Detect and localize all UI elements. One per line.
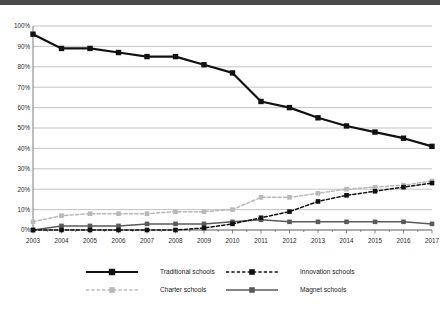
y-axis-tick-label: 50%	[17, 124, 30, 131]
data-point-marker	[287, 105, 292, 110]
legend-marker-swatch	[109, 287, 115, 293]
data-point-marker	[401, 220, 406, 225]
data-point-marker	[373, 189, 378, 194]
legend-marker-swatch	[249, 287, 255, 293]
data-point-marker	[145, 222, 150, 227]
series-traditional-schools	[30, 31, 434, 149]
x-axis-tick-label: 2008	[168, 237, 183, 244]
data-point-marker	[59, 213, 64, 218]
data-point-marker	[173, 222, 178, 227]
y-axis-tick-label: 30%	[17, 165, 30, 172]
data-point-marker	[31, 228, 36, 233]
data-point-marker	[430, 222, 435, 227]
data-point-marker	[173, 209, 178, 214]
data-point-marker	[316, 199, 321, 204]
series-line	[33, 34, 432, 146]
legend-item-charter-schools[interactable]: Charter schools	[86, 286, 207, 293]
legend-item-traditional-schools[interactable]: Traditional schools	[86, 268, 215, 275]
data-point-marker	[116, 224, 121, 229]
y-axis-tick-label: 10%	[17, 206, 30, 213]
y-axis-tick-label: 40%	[17, 145, 30, 152]
data-point-marker	[258, 99, 263, 104]
y-axis-tick-label: 0%	[21, 226, 31, 233]
legend-item-label: Charter schools	[160, 286, 207, 293]
data-point-marker	[344, 187, 349, 192]
legend-item-label: Traditional schools	[160, 268, 215, 275]
x-axis-tick-label: 2016	[396, 237, 411, 244]
data-point-marker	[344, 123, 349, 128]
legend-graphic: Traditional schoolsInnovation schoolsCha…	[0, 258, 440, 308]
data-point-marker	[173, 228, 178, 233]
x-axis-tick-label: 2009	[197, 237, 212, 244]
legend-item-label: Magnet schools	[300, 286, 347, 294]
data-point-marker	[430, 181, 435, 186]
data-point-marker	[373, 220, 378, 225]
data-point-marker	[287, 195, 292, 200]
data-point-marker	[344, 220, 349, 225]
data-point-marker	[144, 54, 149, 59]
y-axis-tick-label: 20%	[17, 186, 30, 193]
data-point-marker	[230, 70, 235, 75]
x-axis-tick-label: 2004	[54, 237, 69, 244]
x-axis-tick-label: 2012	[282, 237, 297, 244]
series-charter-schools	[31, 179, 435, 224]
y-axis-tick-label: 60%	[17, 104, 30, 111]
legend-item-label: Innovation schools	[300, 268, 355, 275]
data-point-marker	[116, 211, 121, 216]
x-axis-tick-label: 2003	[26, 237, 41, 244]
data-point-marker	[429, 144, 434, 149]
data-point-marker	[31, 220, 36, 225]
data-point-marker	[344, 193, 349, 198]
data-point-marker	[315, 115, 320, 120]
data-point-marker	[87, 46, 92, 51]
series-line	[33, 181, 432, 222]
legend-marker-swatch	[109, 269, 115, 275]
x-axis-tick-label: 2005	[83, 237, 98, 244]
data-point-marker	[259, 195, 264, 200]
legend-item-magnet-schools[interactable]: Magnet schools	[226, 286, 347, 294]
x-axis-tick-label: 2011	[254, 237, 268, 244]
legend-item-innovation-schools[interactable]: Innovation schools	[226, 268, 355, 275]
line-chart: 0%10%20%30%40%50%60%70%80%90%100%2003200…	[0, 5, 440, 255]
data-point-marker	[287, 209, 292, 214]
data-point-marker	[116, 228, 121, 233]
data-point-marker	[88, 224, 93, 229]
data-point-marker	[59, 224, 64, 229]
data-point-marker	[145, 228, 150, 233]
x-axis-tick-label: 2007	[140, 237, 155, 244]
data-point-marker	[373, 185, 378, 190]
data-point-marker	[202, 222, 207, 227]
x-axis-tick-label: 2006	[111, 237, 126, 244]
chart-plot-area: 0%10%20%30%40%50%60%70%80%90%100%2003200…	[0, 5, 440, 255]
data-point-marker	[116, 50, 121, 55]
data-point-marker	[202, 226, 207, 231]
data-point-marker	[230, 222, 235, 227]
y-axis-tick-label: 80%	[17, 63, 30, 70]
data-point-marker	[202, 209, 207, 214]
x-axis-tick-label: 2013	[311, 237, 326, 244]
data-point-marker	[145, 211, 150, 216]
data-point-marker	[59, 46, 64, 51]
data-point-marker	[173, 54, 178, 59]
data-point-marker	[30, 31, 35, 36]
x-axis-tick-label: 2015	[368, 237, 383, 244]
y-axis-tick-label: 70%	[17, 84, 30, 91]
y-axis-tick-label: 100%	[14, 22, 31, 29]
data-point-marker	[259, 215, 264, 220]
data-point-marker	[59, 228, 64, 233]
data-point-marker	[316, 191, 321, 196]
x-axis-tick-label: 2017	[425, 237, 440, 244]
x-axis-tick-label: 2014	[339, 237, 354, 244]
data-point-marker	[316, 220, 321, 225]
y-axis-tick-label: 90%	[17, 43, 30, 50]
data-point-marker	[88, 211, 93, 216]
data-point-marker	[372, 129, 377, 134]
data-point-marker	[287, 220, 292, 225]
legend-marker-swatch	[249, 269, 255, 275]
chart-legend: Traditional schoolsInnovation schoolsCha…	[0, 258, 440, 308]
data-point-marker	[201, 62, 206, 67]
data-point-marker	[88, 228, 93, 233]
data-point-marker	[230, 207, 235, 212]
data-point-marker	[401, 185, 406, 190]
x-axis-tick-label: 2010	[225, 237, 240, 244]
